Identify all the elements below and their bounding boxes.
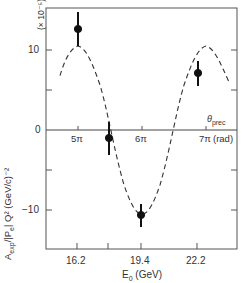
theta-ticks <box>78 126 206 130</box>
theta-tick-label-7pi: 7π <box>199 133 211 144</box>
data-point-3 <box>137 204 144 227</box>
x-tick-label-16-2: 16.2 <box>66 255 85 266</box>
y-tick-label-0: 0 <box>35 124 41 135</box>
data-points <box>74 12 201 227</box>
theta-prec-label: θprec <box>207 114 226 126</box>
data-point-1 <box>74 12 81 46</box>
rad-unit-label: (rad) <box>213 133 233 144</box>
y-tick-label-neg10: −10 <box>22 204 39 215</box>
x-ticks <box>77 243 197 249</box>
x-axis-title: E0 (GeV) <box>122 269 162 282</box>
x-tick-label-22-2: 22.2 <box>186 255 205 266</box>
data-point-2 <box>105 122 112 155</box>
theta-tick-label-5pi: 5π <box>71 133 83 144</box>
data-point-4 <box>194 61 201 86</box>
y-tick-label-10: 10 <box>28 44 39 55</box>
y-axis-title: Aexp/|Pe| Q² (GeV/c)⁻² <box>2 168 15 260</box>
x-tick-label-19-4: 19.4 <box>130 255 149 266</box>
theta-tick-label-6pi: 6π <box>135 133 147 144</box>
y-multiplier-label: (× 10⁻⁵) <box>36 0 46 30</box>
